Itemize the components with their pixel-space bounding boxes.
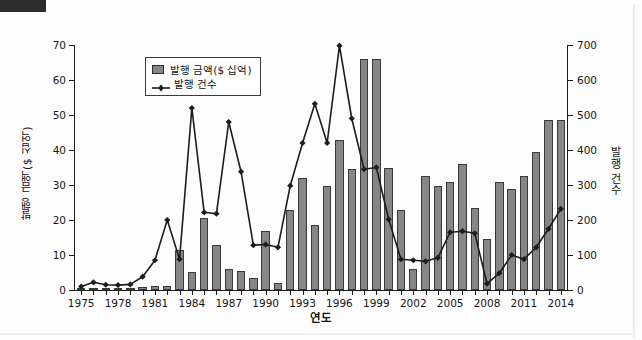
legend-item-label: 발행 금액($ 십억) <box>170 62 252 77</box>
y-tick-right-500 <box>567 115 573 116</box>
x-tick-2004 <box>438 290 439 295</box>
line-marker-2007 <box>472 230 478 236</box>
x-tick-label-1978: 1978 <box>105 297 132 309</box>
y-tick-label-right-300: 300 <box>577 180 597 191</box>
plot-area: 0102030405060700100200300400500600700197… <box>74 45 568 291</box>
line-marker-1993 <box>299 140 305 146</box>
x-tick-1994 <box>315 290 316 295</box>
y-tick-label-right-0: 0 <box>577 285 584 296</box>
line-marker-2000 <box>386 216 392 222</box>
y-axis-title-left: 발행 금액($ 십억) <box>20 126 36 220</box>
x-tick-1978 <box>118 290 119 295</box>
line-marker-2004 <box>435 255 441 261</box>
y-tick-left-20 <box>69 220 75 221</box>
x-tick-label-1984: 1984 <box>178 297 205 309</box>
x-tick-1989 <box>253 290 254 295</box>
line-marker-2002 <box>410 257 416 263</box>
y-tick-right-300 <box>567 185 573 186</box>
x-tick-1975 <box>81 290 82 295</box>
x-tick-1983 <box>180 290 181 295</box>
y-tick-label-right-200: 200 <box>577 215 597 226</box>
x-tick-1984 <box>192 290 193 295</box>
legend-item-amount: 발행 금액($ 십억) <box>152 62 252 76</box>
y-tick-label-left-0: 0 <box>59 285 66 296</box>
x-tick-2008 <box>487 290 488 295</box>
bar-swatch-icon <box>152 65 164 74</box>
x-tick-1985 <box>204 290 205 295</box>
y-tick-right-400 <box>567 150 573 151</box>
y-tick-right-100 <box>567 255 573 256</box>
line-marker-1987 <box>226 119 232 125</box>
line-marker-1996 <box>336 43 342 49</box>
x-tick-label-1975: 1975 <box>68 297 95 309</box>
x-tick-1987 <box>229 290 230 295</box>
y-tick-label-left-20: 20 <box>53 215 66 226</box>
y-tick-right-0 <box>567 290 573 291</box>
y-tick-left-30 <box>69 185 75 186</box>
line-marker-1988 <box>238 169 244 175</box>
line-diamond-marker-icon <box>152 78 170 88</box>
line-marker-1986 <box>213 211 219 217</box>
y-tick-left-70 <box>69 45 75 46</box>
x-tick-1976 <box>93 290 94 295</box>
y-tick-label-left-70: 70 <box>53 40 66 51</box>
line-marker-2003 <box>422 258 428 264</box>
line-marker-1985 <box>201 209 207 215</box>
y-tick-label-left-30: 30 <box>53 180 66 191</box>
x-tick-1980 <box>143 290 144 295</box>
y-tick-right-200 <box>567 220 573 221</box>
y-tick-right-600 <box>567 80 573 81</box>
line-marker-2005 <box>447 229 453 235</box>
chart-legend: 발행 금액($ 십억) 발행 건수 <box>145 57 261 96</box>
chart-figure: 발행 금액($ 십억) 발행 건수 연도 0102030405060700100… <box>0 14 642 336</box>
x-tick-label-2008: 2008 <box>474 297 501 309</box>
x-tick-1998 <box>364 290 365 295</box>
x-tick-2010 <box>512 290 513 295</box>
y-tick-left-60 <box>69 80 75 81</box>
x-tick-label-1990: 1990 <box>252 297 279 309</box>
x-tick-1988 <box>241 290 242 295</box>
line-marker-1978 <box>115 282 121 288</box>
x-tick-label-2011: 2011 <box>511 297 538 309</box>
scan-corner-artifact <box>0 0 46 12</box>
x-tick-2012 <box>536 290 537 295</box>
y-tick-label-right-500: 500 <box>577 110 597 121</box>
y-tick-left-40 <box>69 150 75 151</box>
x-tick-1993 <box>303 290 304 295</box>
line-marker-1989 <box>250 242 256 248</box>
x-tick-2014 <box>561 290 562 295</box>
y-tick-left-50 <box>69 115 75 116</box>
x-tick-label-1996: 1996 <box>326 297 353 309</box>
x-tick-1997 <box>352 290 353 295</box>
legend-item-count: 발행 건수 <box>152 76 252 90</box>
line-marker-1994 <box>312 101 318 107</box>
y-tick-label-right-700: 700 <box>577 40 597 51</box>
y-tick-label-right-100: 100 <box>577 250 597 261</box>
y-tick-label-left-40: 40 <box>53 145 66 156</box>
y-tick-label-right-600: 600 <box>577 75 597 86</box>
x-tick-label-2014: 2014 <box>547 297 574 309</box>
y-tick-left-10 <box>69 255 75 256</box>
line-marker-1991 <box>275 244 281 250</box>
x-tick-label-1999: 1999 <box>363 297 390 309</box>
legend-item-label: 발행 건수 <box>174 76 217 91</box>
x-tick-1977 <box>106 290 107 295</box>
x-tick-label-1993: 1993 <box>289 297 316 309</box>
line-marker-1999 <box>373 164 379 170</box>
x-tick-1992 <box>290 290 291 295</box>
x-tick-2003 <box>426 290 427 295</box>
x-tick-2005 <box>450 290 451 295</box>
line-marker-1997 <box>349 115 355 121</box>
x-tick-2000 <box>389 290 390 295</box>
x-tick-1982 <box>167 290 168 295</box>
x-tick-2007 <box>475 290 476 295</box>
x-tick-label-1987: 1987 <box>215 297 242 309</box>
x-tick-1981 <box>155 290 156 295</box>
x-tick-2002 <box>413 290 414 295</box>
x-tick-label-1981: 1981 <box>142 297 169 309</box>
x-tick-2009 <box>499 290 500 295</box>
x-axis-title: 연도 <box>0 309 642 325</box>
x-tick-1986 <box>216 290 217 295</box>
line-marker-1977 <box>103 282 109 288</box>
line-marker-1983 <box>176 256 182 262</box>
